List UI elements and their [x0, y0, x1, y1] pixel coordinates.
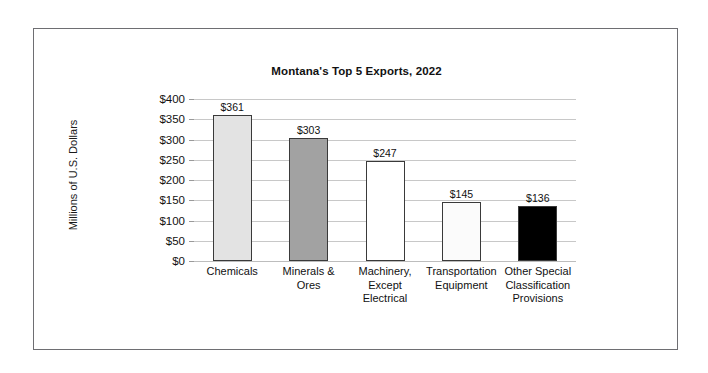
y-tick-mark	[189, 140, 194, 141]
axis-baseline	[194, 261, 576, 262]
x-axis-label-line: Provisions	[496, 292, 580, 306]
y-tick-label: $200	[159, 174, 185, 186]
bar[interactable]: $145	[442, 202, 481, 261]
bar[interactable]: $361	[213, 115, 252, 261]
bar-value-label: $247	[373, 147, 396, 159]
x-axis-category-label: Other SpecialClassificationProvisions	[496, 265, 580, 306]
y-tick-mark	[189, 221, 194, 222]
y-axis-title: Millions of U.S. Dollars	[67, 85, 79, 265]
y-tick-mark	[189, 180, 194, 181]
x-axis-category-label: Minerals &Ores	[266, 265, 350, 292]
y-tick-mark	[189, 261, 194, 262]
x-axis-label-line: Electrical	[343, 292, 427, 306]
bar-value-label: $145	[450, 188, 473, 200]
y-tick-label: $100	[159, 215, 185, 227]
x-axis-label-line: Chemicals	[190, 265, 274, 279]
chart-title: Montana's Top 5 Exports, 2022	[34, 65, 679, 77]
x-axis-label-line: Except	[343, 279, 427, 293]
x-axis-label-line: Transportation	[419, 265, 503, 279]
bar[interactable]: $247	[366, 161, 405, 261]
gridline	[194, 99, 576, 100]
y-tick-label: $0	[172, 255, 185, 267]
bar-value-label: $303	[297, 124, 320, 136]
x-axis-label-line: Equipment	[419, 279, 503, 293]
y-tick-label: $350	[159, 113, 185, 125]
y-tick-label: $400	[159, 93, 185, 105]
y-tick-mark	[189, 241, 194, 242]
x-axis-label-line: Other Special	[496, 265, 580, 279]
plot-area: $400$350$300$250$200$150$100$50$0 $361$3…	[194, 99, 576, 261]
bar-value-label: $136	[526, 192, 549, 204]
chart-frame: Montana's Top 5 Exports, 2022 Millions o…	[33, 28, 678, 350]
y-tick-label: $150	[159, 194, 185, 206]
x-axis-category-label: Chemicals	[190, 265, 274, 279]
y-tick-label: $250	[159, 154, 185, 166]
y-tick-label: $300	[159, 134, 185, 146]
x-axis-category-label: TransportationEquipment	[419, 265, 503, 292]
y-tick-mark	[189, 99, 194, 100]
x-axis-label-line: Ores	[266, 279, 350, 293]
x-axis-label-line: Machinery,	[343, 265, 427, 279]
y-tick-label: $50	[166, 235, 185, 247]
bar[interactable]: $303	[289, 138, 328, 261]
y-tick-mark	[189, 160, 194, 161]
bar-value-label: $361	[221, 101, 244, 113]
y-tick-mark	[189, 119, 194, 120]
x-axis-label-line: Classification	[496, 279, 580, 293]
bar[interactable]: $136	[518, 206, 557, 261]
y-tick-mark	[189, 200, 194, 201]
x-axis-category-label: Machinery,ExceptElectrical	[343, 265, 427, 306]
x-axis-label-line: Minerals &	[266, 265, 350, 279]
